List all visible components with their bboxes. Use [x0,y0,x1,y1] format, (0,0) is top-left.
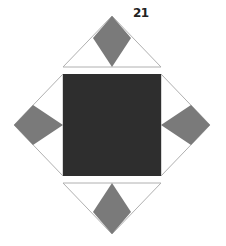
bottom-triangle [63,183,161,234]
quilt-block-diagram [0,0,226,246]
top-triangle [63,16,161,67]
right-triangle [161,74,210,176]
left-triangle [14,74,63,176]
